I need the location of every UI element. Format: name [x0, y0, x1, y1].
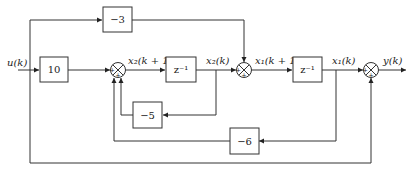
delay-block-x2: z⁻¹ [166, 57, 196, 82]
input-label: u(k) [7, 57, 27, 68]
svg-text:−6: −6 [237, 136, 252, 147]
gain-minus3-block: −3 [103, 7, 132, 32]
x1-label: x₁(k) [332, 55, 356, 66]
input-branch-lines [30, 20, 371, 163]
delay-block-x1: z⁻¹ [293, 57, 322, 82]
gain-minus5-output-line [121, 78, 133, 115]
gain-minus6-output-line [114, 78, 230, 141]
svg-text:+: + [368, 71, 373, 78]
svg-text:+: + [110, 66, 115, 73]
svg-text:+: + [363, 66, 368, 73]
svg-text:z⁻¹: z⁻¹ [300, 64, 315, 75]
x2-label: x₂(k) [206, 55, 230, 66]
gain-10-block: 10 [40, 57, 68, 82]
svg-text:z⁻¹: z⁻¹ [174, 64, 189, 75]
block-diagram: u(k) −3 10 + + x₂(k + 1) z⁻¹ x₂(k) −5 [0, 0, 414, 171]
svg-text:−3: −3 [110, 14, 125, 25]
svg-text:10: 10 [48, 64, 61, 75]
summing-junction-3: + + [363, 63, 379, 79]
summing-junction-2: + + [236, 63, 252, 79]
svg-text:+: + [236, 66, 241, 73]
summing-junction-1: + + [110, 63, 126, 79]
output-label: y(k) [382, 55, 403, 66]
svg-text:+: + [241, 71, 246, 78]
svg-text:+: + [115, 71, 120, 78]
gain-minus6-block: −6 [230, 128, 259, 154]
gain-minus5-block: −5 [133, 102, 162, 128]
svg-text:−5: −5 [140, 110, 155, 121]
